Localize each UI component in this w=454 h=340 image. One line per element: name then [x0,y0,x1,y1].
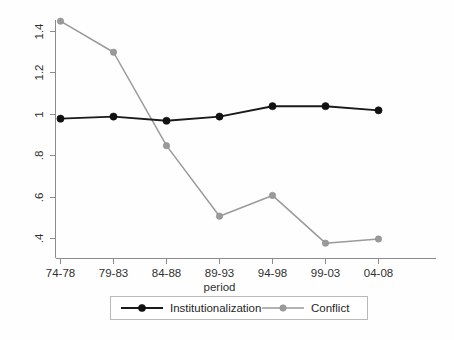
data-point [269,192,275,198]
series-line-conflict [61,21,379,243]
x-tick-label-4: 94-98 [258,267,287,279]
chart-container: 1.4 1.2 1 .8 .6 .4 74-78 79-83 84-88 89-… [0,0,454,340]
y-tick-label-1: 1 [33,111,45,117]
data-point [375,236,381,242]
data-point [216,213,222,219]
x-tick-label-3: 89-93 [205,267,234,279]
series-markers-conflict [57,18,381,246]
x-axis-title: period [204,281,236,293]
x-tick-label-5: 99-03 [311,267,340,279]
data-point [163,142,169,148]
line-chart: 1.4 1.2 1 .8 .6 .4 74-78 79-83 84-88 89-… [0,0,454,340]
data-point [322,240,328,246]
data-point [110,49,116,55]
x-tick-label-1: 79-83 [99,267,128,279]
data-point [110,113,117,120]
series-path-conflict [61,21,379,243]
data-point [269,103,276,110]
legend-marker-institutionalization [138,304,145,311]
data-point [322,103,329,110]
data-point [57,115,64,122]
data-point [163,117,170,124]
data-point [57,18,63,24]
legend-marker-conflict [280,305,286,311]
x-tick-label-2: 84-88 [152,267,181,279]
data-point [375,107,382,114]
y-tick-label-0.8: .8 [33,151,45,161]
legend-label-conflict: Conflict [311,302,350,314]
data-point [216,113,223,120]
y-tick-label-1.4: 1.4 [33,23,45,40]
y-tick-label-0.6: .6 [33,193,45,203]
y-tick-label-1.2: 1.2 [33,65,45,81]
x-tick-label-0: 74-78 [46,267,75,279]
x-tick-label-6: 04-08 [364,267,393,279]
legend-label-institutionalization: Institutionalization [170,302,261,314]
y-tick-label-0.4: .4 [33,233,45,243]
